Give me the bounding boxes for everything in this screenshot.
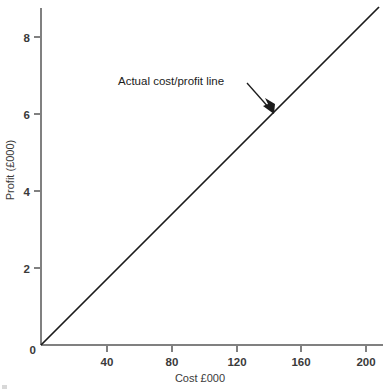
- x-tick-label-80: 80: [166, 356, 179, 368]
- y-tick-label-4: 4: [24, 186, 31, 198]
- x-tick-label-40: 40: [101, 356, 114, 368]
- series-actual-cost-profit-line: [41, 7, 379, 345]
- x-tick-label-120: 120: [227, 356, 246, 368]
- x-tick-label-160: 160: [291, 356, 310, 368]
- y-tick-label-2: 2: [24, 263, 30, 275]
- y-tick-labels: 8 6 4 2 0: [24, 32, 36, 356]
- y-tick-label-6: 6: [24, 109, 30, 121]
- x-axis-title: Cost £000: [175, 372, 225, 384]
- y-tick-label-8: 8: [24, 32, 31, 44]
- page-artifact-speck: [2, 385, 7, 389]
- y-tick-marks: [34, 37, 41, 268]
- x-tick-marks: [107, 345, 366, 352]
- x-tick-label-200: 200: [356, 356, 375, 368]
- y-axis-title: Profit (£000): [4, 140, 16, 201]
- y-tick-label-0: 0: [30, 344, 36, 356]
- annotation-arrow-head: [263, 98, 275, 114]
- annotation-arrow: [247, 83, 275, 114]
- chart-canvas: 8 6 4 2 0 40 80 120 160 200 Actual cost/…: [0, 0, 389, 391]
- annotation-label: Actual cost/profit line: [118, 75, 224, 87]
- x-tick-labels: 40 80 120 160 200: [101, 356, 376, 368]
- chart-figure: 8 6 4 2 0 40 80 120 160 200 Actual cost/…: [0, 0, 389, 391]
